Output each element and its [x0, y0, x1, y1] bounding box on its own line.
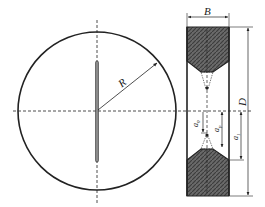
- a1-label: a1: [231, 134, 241, 141]
- front-view: R: [18, 20, 176, 203]
- section-view: B D a0 ap a1: [187, 5, 253, 196]
- height-label: D: [236, 98, 248, 107]
- section-upper-block: [187, 27, 229, 72]
- section-lower-block: [187, 149, 229, 196]
- wheel-diagram: R B D a0 ap: [0, 0, 265, 207]
- radius-dimension: [98, 63, 157, 110]
- ap-label: ap: [212, 125, 222, 132]
- arbor-rod: [96, 61, 99, 162]
- width-label: B: [204, 5, 211, 17]
- a0-label: a0: [191, 120, 201, 127]
